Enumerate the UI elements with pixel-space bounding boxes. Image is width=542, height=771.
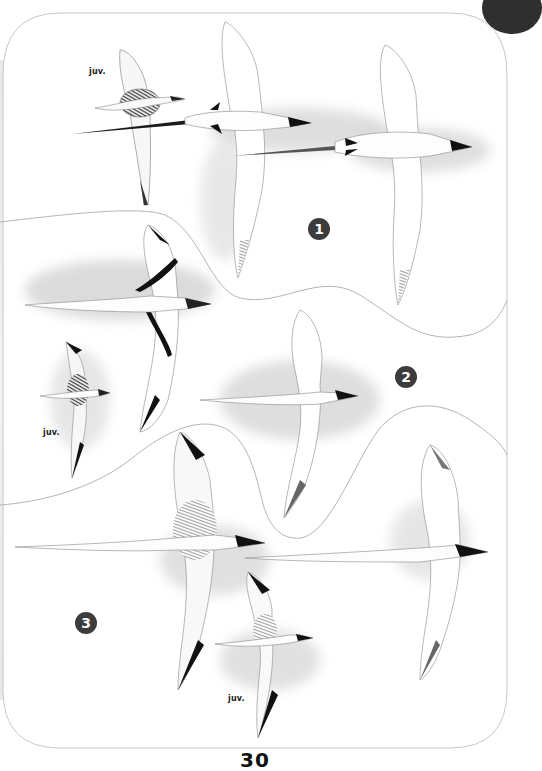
section-number-badge-1: 1 (308, 218, 330, 240)
section-number-badge-2: 2 (395, 366, 417, 388)
section-number-badge-3: 3 (75, 612, 97, 634)
bird-adult-1b (232, 45, 472, 305)
juvenile-label-section-2: juv. (43, 428, 60, 437)
juvenile-label-section-3: juv. (228, 694, 245, 703)
juvenile-label-section-1: juv. (89, 67, 106, 76)
page-number: 30 (240, 750, 270, 770)
section-3-illustrations (15, 432, 488, 738)
